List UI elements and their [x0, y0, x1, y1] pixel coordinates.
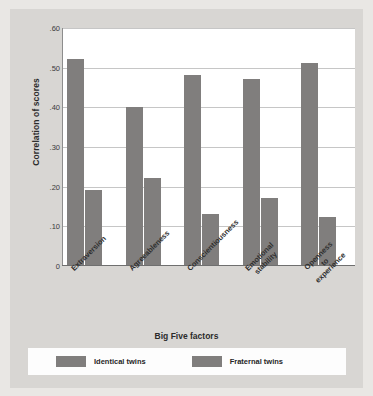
bar-groups	[62, 28, 355, 265]
bar-identical-conscientiousness	[184, 75, 201, 265]
y-tick-label-40: .40	[34, 103, 60, 112]
y-tick-label-10: .10	[34, 222, 60, 231]
x-axis-title: Big Five factors	[10, 331, 363, 341]
bar-identical-openness	[301, 63, 318, 265]
bar-identical-extraversion	[67, 59, 84, 265]
legend-item-fraternal-twins: Fraternal twins	[192, 356, 283, 367]
y-tick-label-0: 0	[34, 262, 60, 271]
plot-area	[62, 28, 355, 266]
top-caption	[8, 0, 128, 9]
y-tick-label-30: .30	[34, 143, 60, 152]
legend-label-fraternal-twins: Fraternal twins	[230, 357, 283, 366]
bar-identical-agreeableness	[126, 107, 143, 266]
legend-swatch-identical-twins	[56, 356, 86, 367]
bar-group-emotional-stability	[238, 28, 297, 265]
x-axis-tick-labels: Extraversion Agreeableness Conscientious…	[62, 267, 355, 329]
bar-group-openness	[296, 28, 355, 265]
chart-legend: Identical twins Fraternal twins	[28, 348, 346, 375]
legend-label-identical-twins: Identical twins	[94, 357, 146, 366]
plot-wrapper: Correlation of scores .60 .50 .40 .30 .2…	[10, 9, 363, 269]
y-axis-tick-labels: .60 .50 .40 .30 .20 .10 0	[34, 9, 60, 269]
legend-item-identical-twins: Identical twins	[56, 356, 146, 367]
y-tick-label-50: .50	[34, 63, 60, 72]
bar-identical-emotional-stability	[243, 79, 260, 265]
figure-panel: Correlation of scores .60 .50 .40 .30 .2…	[10, 9, 363, 388]
y-tick-label-20: .20	[34, 182, 60, 191]
bar-group-agreeableness	[121, 28, 180, 265]
y-tick-label-60: .60	[34, 24, 60, 33]
bar-group-extraversion	[62, 28, 121, 265]
legend-swatch-fraternal-twins	[192, 356, 222, 367]
